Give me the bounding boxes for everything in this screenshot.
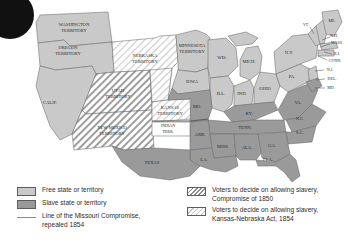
legend-label-free: Free state or territory bbox=[42, 186, 104, 195]
region-conn-ri bbox=[318, 50, 334, 56]
label-miss: MISS. bbox=[217, 144, 229, 149]
label-new-mexico-territory: NEW MEXICOTERRITORY bbox=[97, 125, 127, 136]
line-swatch bbox=[17, 213, 36, 222]
legend-item-missouri-line: Line of the Missouri Compromise, repeale… bbox=[17, 212, 192, 229]
legend-item-compromise-1850: Voters to decide on allowing slavery, Co… bbox=[187, 186, 348, 203]
map-canvas: WASHINGTONTERRITORY OREGONTERRITORY UTAH… bbox=[0, 0, 348, 186]
hatch-heavy-swatch bbox=[187, 187, 206, 196]
label-la: LA. bbox=[200, 157, 207, 162]
label-me: ME. bbox=[329, 18, 336, 23]
label-nj: N.J. bbox=[327, 67, 333, 72]
label-wis: WIS. bbox=[217, 55, 227, 60]
label-ala: ALA. bbox=[242, 145, 253, 150]
label-minnesota-territory: MINNESOTATERRITORY bbox=[179, 43, 206, 54]
free-swatch bbox=[17, 187, 36, 196]
label-iowa: IOWA bbox=[186, 79, 199, 84]
label-pa: PA. bbox=[289, 74, 296, 79]
legend-column-right: Voters to decide on allowing slavery, Co… bbox=[187, 186, 348, 226]
legend-item-slave: Slave state or territory bbox=[17, 199, 192, 209]
label-va: VA. bbox=[294, 100, 301, 105]
map-figure: WASHINGTONTERRITORY OREGONTERRITORY UTAH… bbox=[0, 0, 348, 250]
label-tenn: TENN. bbox=[238, 125, 251, 130]
label-ny: N.Y. bbox=[285, 50, 293, 55]
label-ill: ILL. bbox=[217, 91, 225, 96]
slave-swatch bbox=[17, 200, 36, 209]
label-indian-territory: INDIANTERR. bbox=[161, 123, 175, 134]
legend-item-free: Free state or territory bbox=[17, 186, 192, 196]
legend-item-kansas-nebraska-1854: Voters to decide on allowing slavery, Ka… bbox=[187, 206, 348, 223]
us-map-svg: WASHINGTONTERRITORY OREGONTERRITORY UTAH… bbox=[0, 0, 348, 186]
label-texas: TEXAS bbox=[145, 160, 160, 165]
label-ky: KY. bbox=[245, 111, 252, 116]
label-md: MD. bbox=[327, 85, 334, 90]
legend-label-slave: Slave state or territory bbox=[42, 199, 107, 208]
label-vt: VT. bbox=[303, 22, 309, 27]
label-calif: CALIF. bbox=[43, 100, 57, 105]
label-ohio: OHIO bbox=[259, 86, 271, 91]
legend-label-kansas-nebraska-1854: Voters to decide on allowing slavery, Ka… bbox=[212, 206, 318, 223]
label-ri: R.I. bbox=[334, 51, 340, 56]
label-washington-territory: WASHINGTONTERRITORY bbox=[59, 22, 90, 33]
legend-label-compromise-1850: Voters to decide on allowing slavery, Co… bbox=[212, 186, 318, 203]
legend-column-left: Free state or territory Slave state or t… bbox=[17, 186, 192, 232]
label-mich: MICH. bbox=[242, 59, 255, 64]
label-conn: CONN. bbox=[329, 58, 341, 63]
label-fla: FLA. bbox=[263, 157, 273, 162]
label-mass: MASS. bbox=[331, 40, 343, 45]
label-mo: MO. bbox=[193, 104, 202, 109]
map-legend: Free state or territory Slave state or t… bbox=[0, 186, 348, 250]
label-nebraska-territory: NEBRASKATERRITORY bbox=[132, 53, 158, 64]
label-nc: N.C. bbox=[296, 116, 305, 121]
legend-label-missouri-line: Line of the Missouri Compromise, repeale… bbox=[42, 212, 140, 229]
label-oregon-territory: OREGONTERRITORY bbox=[55, 45, 81, 56]
hatch-light-swatch bbox=[187, 207, 206, 216]
label-ark: ARK. bbox=[195, 132, 206, 137]
label-sc: S.C. bbox=[296, 130, 304, 135]
label-del: DEL. bbox=[328, 76, 337, 81]
label-nh: N.H. bbox=[330, 33, 338, 38]
label-ind: IND. bbox=[237, 91, 246, 96]
label-ga: GA. bbox=[268, 143, 276, 148]
